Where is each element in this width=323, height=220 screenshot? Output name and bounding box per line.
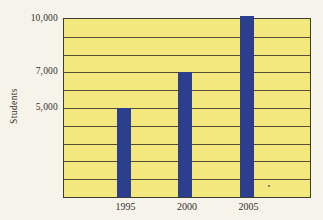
x-tick-label: 2005 <box>223 201 275 213</box>
y-tick-label: 5,000 <box>0 101 58 113</box>
bar-2005 <box>240 16 254 197</box>
bar-chart-figure: Students 5,0007,00010,000 199520002005 <box>0 0 323 220</box>
scan-artifact-dot <box>268 185 270 187</box>
bar-2000 <box>178 72 192 197</box>
gridline <box>64 55 310 56</box>
plot-area <box>63 18 311 198</box>
y-tick-label: 7,000 <box>0 65 58 77</box>
y-tick-label: 10,000 <box>0 12 58 24</box>
x-tick-label: 2000 <box>161 201 213 213</box>
gridline <box>64 37 310 38</box>
x-tick-label: 1995 <box>100 201 152 213</box>
bar-1995 <box>117 108 131 197</box>
